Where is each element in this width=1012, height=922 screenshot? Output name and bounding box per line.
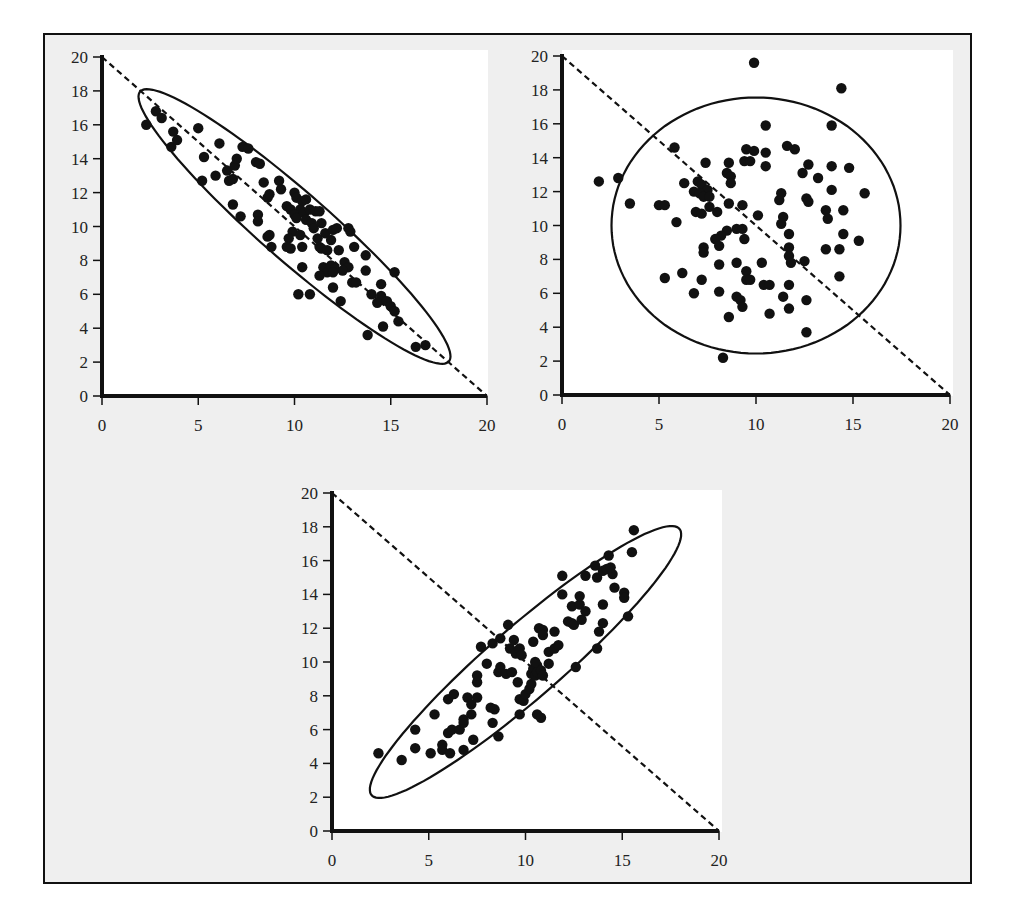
data-point xyxy=(557,589,567,599)
data-point xyxy=(172,135,182,145)
y-tick-label: 8 xyxy=(540,250,549,269)
y-tick-label: 4 xyxy=(540,318,549,337)
data-point xyxy=(210,170,220,180)
y-tick-label: 8 xyxy=(310,687,319,706)
data-point xyxy=(253,216,263,226)
data-point xyxy=(389,306,399,316)
data-point xyxy=(660,200,670,210)
panel-negative-correlation: 0246810121416182005101520 xyxy=(71,48,496,435)
data-point xyxy=(326,235,336,245)
plot-area xyxy=(332,490,722,832)
data-point xyxy=(193,123,203,133)
data-point xyxy=(724,198,734,208)
data-point xyxy=(328,282,338,292)
plot-area xyxy=(562,50,953,396)
y-tick-label: 14 xyxy=(301,585,319,604)
y-tick-label: 0 xyxy=(540,386,549,405)
data-point xyxy=(625,198,635,208)
data-point xyxy=(813,173,823,183)
data-point xyxy=(372,298,382,308)
data-point xyxy=(776,188,786,198)
x-tick-label: 15 xyxy=(382,416,399,435)
data-point xyxy=(389,267,399,277)
data-point xyxy=(376,279,386,289)
y-tick-label: 4 xyxy=(310,754,319,773)
data-point xyxy=(293,289,303,299)
y-tick-label: 0 xyxy=(80,387,89,406)
data-point xyxy=(156,113,166,123)
data-point xyxy=(259,177,269,187)
data-point xyxy=(679,178,689,188)
data-point xyxy=(361,250,371,260)
data-point xyxy=(859,188,869,198)
y-tick-label: 2 xyxy=(540,352,549,371)
data-point xyxy=(337,265,347,275)
data-point xyxy=(598,618,608,628)
data-point xyxy=(468,735,478,745)
y-tick-label: 0 xyxy=(310,822,319,841)
data-point xyxy=(264,230,274,240)
data-point xyxy=(538,670,548,680)
data-point xyxy=(553,640,563,650)
data-point xyxy=(197,176,207,186)
data-point xyxy=(366,289,376,299)
y-tick-label: 12 xyxy=(531,183,548,202)
y-tick-label: 14 xyxy=(71,150,89,169)
data-point xyxy=(482,658,492,668)
data-point xyxy=(700,158,710,168)
data-point xyxy=(749,58,759,68)
y-tick-label: 16 xyxy=(531,115,548,134)
data-point xyxy=(799,256,809,266)
x-tick-label: 10 xyxy=(748,415,765,434)
data-point xyxy=(420,340,430,350)
data-point xyxy=(472,692,482,702)
data-point xyxy=(336,296,346,306)
data-point xyxy=(761,161,771,171)
data-point xyxy=(449,689,459,699)
x-tick-label: 20 xyxy=(942,415,959,434)
data-point xyxy=(704,191,714,201)
data-point xyxy=(361,265,371,275)
data-point xyxy=(623,611,633,621)
data-point xyxy=(513,677,523,687)
data-point xyxy=(276,184,286,194)
data-point xyxy=(753,210,763,220)
data-point xyxy=(503,620,513,630)
data-point xyxy=(594,176,604,186)
data-point xyxy=(714,259,724,269)
data-point xyxy=(141,120,151,130)
data-point xyxy=(731,258,741,268)
data-point xyxy=(528,637,538,647)
data-point xyxy=(214,138,224,148)
data-point xyxy=(786,258,796,268)
data-point xyxy=(322,245,332,255)
data-point xyxy=(605,562,615,572)
data-point xyxy=(778,291,788,301)
y-tick-label: 20 xyxy=(71,48,88,67)
data-point xyxy=(803,159,813,169)
y-tick-label: 2 xyxy=(310,788,319,807)
data-point xyxy=(472,670,482,680)
data-point xyxy=(538,630,548,640)
data-point xyxy=(739,234,749,244)
y-tick-label: 12 xyxy=(71,184,88,203)
x-tick-label: 10 xyxy=(286,416,303,435)
data-point xyxy=(718,353,728,363)
data-point xyxy=(429,709,439,719)
y-tick-label: 10 xyxy=(71,218,88,237)
data-point xyxy=(487,718,497,728)
data-point xyxy=(266,242,276,252)
data-point xyxy=(458,745,468,755)
data-point xyxy=(557,571,567,581)
data-point xyxy=(677,268,687,278)
x-tick-label: 20 xyxy=(711,851,728,870)
y-tick-label: 14 xyxy=(531,149,549,168)
data-point xyxy=(696,208,706,218)
data-point xyxy=(243,143,253,153)
data-point xyxy=(757,258,767,268)
data-point xyxy=(509,635,519,645)
data-point xyxy=(671,217,681,227)
y-tick-label: 18 xyxy=(531,81,548,100)
data-point xyxy=(669,142,679,152)
data-point xyxy=(592,643,602,653)
